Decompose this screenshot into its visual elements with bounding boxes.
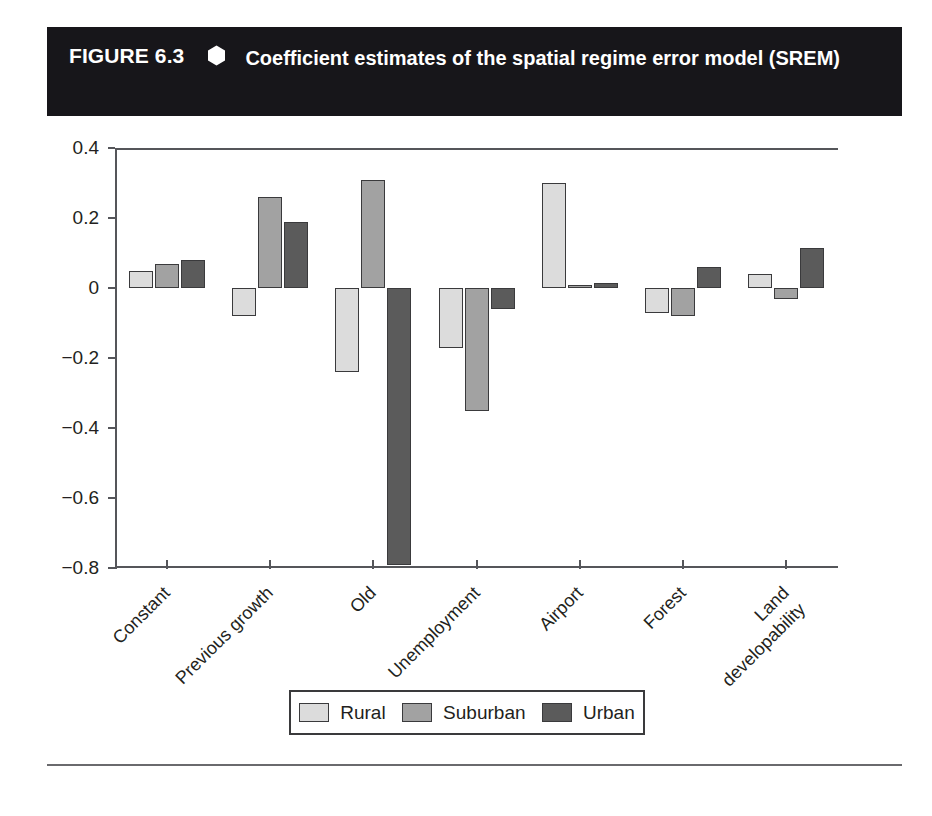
bar-rural [232,288,256,316]
y-axis-tick: −0.8 [108,567,115,569]
x-axis-tick [682,560,684,569]
hexagon-bullet-icon [206,45,227,66]
bar-rural [748,274,772,288]
figure-title-text: Coefficient estimates of the spatial reg… [245,43,840,73]
title-row: FIGURE 6.3 Coefficient estimates of the … [69,43,902,73]
y-axis-tick: 0.4 [108,147,115,149]
legend-label: Rural [340,702,385,724]
x-axis-tick [785,560,787,569]
bar-urban [491,288,515,309]
legend-swatch-suburban [402,703,432,722]
bar-urban [800,248,824,288]
legend-label: Urban [583,702,635,724]
y-axis-tick: 0.2 [108,217,115,219]
chart-legend: RuralSuburbanUrban [289,690,645,735]
bar-rural [129,271,153,289]
y-axis-tick-label: 0.2 [73,207,99,229]
bar-urban [697,267,721,288]
bar-suburban [465,288,489,411]
bar-suburban [258,197,282,288]
bar-rural [439,288,463,348]
bar-urban [284,222,308,289]
legend-item: Rural [299,702,385,724]
y-axis-tick-label: −0.4 [61,417,99,439]
zero-baseline [115,148,838,150]
plot-region: 0.40.20−0.2−0.4−0.6−0.8 ConstantPrevious… [115,148,838,568]
bar-rural [645,288,669,313]
legend-label: Suburban [443,702,525,724]
x-axis-tick [476,560,478,569]
legend-swatch-rural [299,703,329,722]
y-axis-tick: −0.4 [108,427,115,429]
y-axis-tick: 0 [108,287,115,289]
x-axis-tick [372,560,374,569]
bar-suburban [774,288,798,299]
y-axis-line [115,148,117,569]
legend-item: Urban [542,702,635,724]
bar-suburban [361,180,385,289]
figure-page: FIGURE 6.3 Coefficient estimates of the … [0,0,932,816]
y-axis-tick: −0.2 [108,357,115,359]
bar-rural [335,288,359,372]
y-axis-tick-label: −0.8 [61,557,99,579]
bar-suburban [568,285,592,289]
chart-area: 0.40.20−0.2−0.4−0.6−0.8 ConstantPrevious… [47,125,902,685]
y-axis-tick-label: 0.4 [73,137,99,159]
y-axis-tick: −0.6 [108,497,115,499]
bar-urban [387,288,411,565]
figure-number-label: FIGURE 6.3 [69,43,184,69]
footer-divider [47,764,902,766]
figure-title-banner: FIGURE 6.3 Coefficient estimates of the … [47,27,902,116]
bar-suburban [671,288,695,316]
x-axis-tick [579,560,581,569]
bar-suburban [155,264,179,289]
y-axis-tick-label: −0.2 [61,347,99,369]
x-axis-tick [166,560,168,569]
x-axis-tick [269,560,271,569]
legend-swatch-urban [542,703,572,722]
y-axis-tick-label: −0.6 [61,487,99,509]
bar-rural [542,183,566,288]
legend-item: Suburban [402,702,525,724]
y-axis-tick-label: 0 [88,277,99,299]
bar-urban [181,260,205,288]
bar-urban [594,283,618,288]
